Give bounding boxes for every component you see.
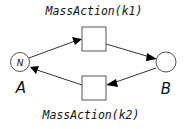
token-label-A: N bbox=[17, 58, 24, 68]
arc-t2-to-A bbox=[30, 66, 82, 85]
transition-label-t2: MassAction(k2) bbox=[42, 108, 140, 122]
arc-B-to-t2 bbox=[106, 68, 156, 87]
place-label-A: A bbox=[15, 79, 26, 97]
transition-label-t1: MassAction(k1) bbox=[45, 4, 143, 18]
place-label-B: B bbox=[161, 80, 171, 98]
place-B[interactable] bbox=[156, 52, 176, 72]
transition-t1[interactable] bbox=[82, 27, 106, 51]
petri-net-diagram: MassAction(k1) MassAction(k2) N A B bbox=[0, 0, 184, 129]
transition-t2[interactable] bbox=[82, 76, 106, 100]
arc-t1-to-B bbox=[106, 44, 157, 61]
place-A[interactable]: N bbox=[11, 53, 30, 72]
arc-A-to-t1 bbox=[29, 37, 82, 58]
